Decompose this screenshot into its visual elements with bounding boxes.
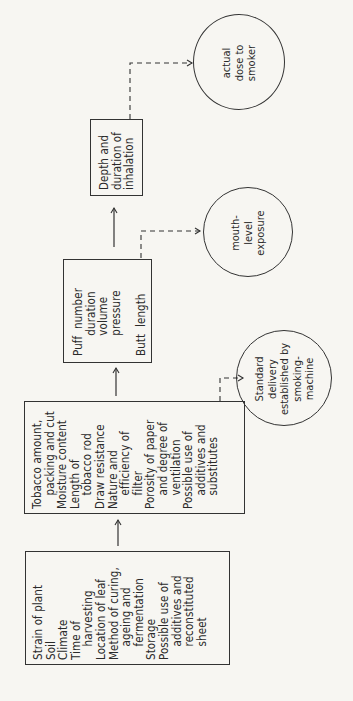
circle-mouth-level-exposure-text: mouth- level exposure (230, 210, 268, 255)
box-inhalation-factors-text: Depth and duration of inhalation (98, 132, 136, 190)
dashed-to-mouth-level (141, 231, 200, 258)
circle-standard-delivery-text: Standard delivery established by smoking… (254, 343, 317, 415)
box-leaf-factors-text: Strain of plant Soil Climate Time of har… (32, 567, 208, 660)
dashed-to-actual-dose (130, 63, 192, 119)
box-cigarette-factors: Tobacco amount, packing and cut Moisture… (24, 401, 245, 514)
box-cigarette-factors-text: Tobacco amount, packing and cut Moisture… (31, 411, 220, 509)
circle-actual-dose-text: actual dose to smoker (221, 45, 259, 82)
circle-mouth-level-exposure: mouth- level exposure (203, 187, 293, 277)
box-puff-factors: Puff number duration volume pressure But… (63, 259, 152, 363)
circle-actual-dose: actual dose to smoker (193, 14, 285, 110)
box-inhalation-factors: Depth and duration of inhalation (90, 119, 143, 196)
box-leaf-factors: Strain of plant Soil Climate Time of har… (25, 551, 230, 665)
box-puff-factors-text: Puff number duration volume pressure But… (72, 288, 148, 356)
circle-standard-delivery: Standard delivery established by smoking… (236, 330, 332, 426)
